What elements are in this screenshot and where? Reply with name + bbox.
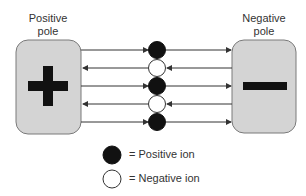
legend-negative-ion-icon (103, 170, 121, 188)
legend-negative-ion-label: = Negative ion (129, 172, 200, 184)
positive-pole (16, 40, 81, 134)
ion-diagram (0, 0, 306, 196)
ion-row-2 (83, 60, 232, 77)
positive-ion (149, 78, 166, 95)
ion-row-3 (81, 78, 231, 95)
negative-ion (149, 60, 166, 77)
positive-ion (149, 114, 166, 131)
negative-ion (149, 96, 166, 113)
positive-ion (149, 42, 166, 59)
minus-icon (243, 82, 287, 90)
ion-row-1 (81, 42, 231, 59)
ion-row-4 (83, 96, 232, 113)
legend-positive-ion-icon (103, 146, 121, 164)
legend-positive-ion-label: = Positive ion (129, 148, 195, 160)
negative-pole (232, 40, 296, 133)
ion-row-5 (81, 114, 231, 131)
